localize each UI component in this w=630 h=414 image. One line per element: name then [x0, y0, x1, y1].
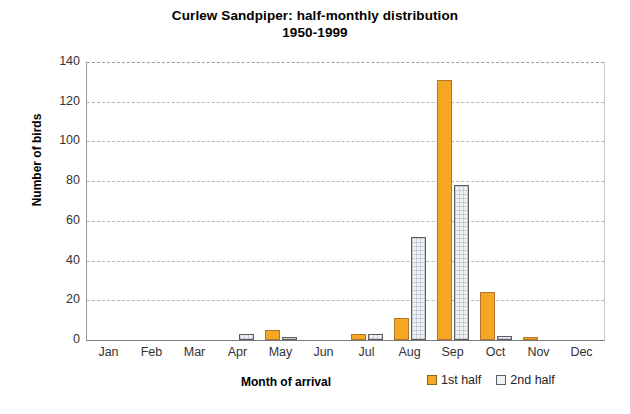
y-axis-tick-label: 40 — [36, 253, 80, 267]
month-bar-group — [474, 62, 517, 340]
x-axis-tick-label: Jan — [87, 345, 130, 359]
month-bar-group — [216, 62, 259, 340]
month-bar-group — [345, 62, 388, 340]
bar-chart: Curlew Sandpiper: half-monthly distribut… — [0, 0, 630, 414]
bar-aug-first-half — [394, 318, 409, 340]
x-axis-tick-label: Oct — [474, 345, 517, 359]
month-bar-group — [87, 62, 130, 340]
chart-title-line-2: 1950-1999 — [0, 24, 630, 41]
y-axis-tick-label: 20 — [36, 292, 80, 306]
y-axis-tick-label: 0 — [36, 332, 80, 346]
x-axis-tick-label: Aug — [388, 345, 431, 359]
legend-label-first-half: 1st half — [441, 374, 481, 386]
legend-swatch-gray-icon — [496, 375, 506, 385]
bar-apr-second-half — [239, 334, 254, 340]
chart-title-line-1: Curlew Sandpiper: half-monthly distribut… — [0, 7, 630, 24]
bar-aug-second-half — [411, 237, 426, 340]
bar-may-second-half — [282, 337, 297, 340]
x-axis-tick-label: Feb — [130, 345, 173, 359]
month-bar-group — [388, 62, 431, 340]
y-axis-tick-label: 140 — [36, 54, 80, 68]
x-axis-tick-label: Dec — [560, 345, 603, 359]
bar-nov-first-half — [523, 337, 538, 340]
month-bar-group — [259, 62, 302, 340]
x-axis-tick-label: Jun — [302, 345, 345, 359]
y-axis-title: Number of birds — [30, 60, 44, 260]
chart-legend: 1st half 2nd half — [427, 374, 555, 386]
x-axis-tick-label: Mar — [173, 345, 216, 359]
x-axis-tick-label: Jul — [345, 345, 388, 359]
x-axis-ticks: JanFebMarAprMayJunJulAugSepOctNovDec — [87, 345, 603, 365]
bar-sep-first-half — [437, 80, 452, 340]
legend-swatch-orange-icon — [427, 375, 437, 385]
bar-jul-first-half — [351, 334, 366, 340]
month-bar-group — [302, 62, 345, 340]
x-axis-tick-label: Apr — [216, 345, 259, 359]
y-axis-tick-label: 100 — [36, 133, 80, 147]
x-axis-tick-label: Nov — [517, 345, 560, 359]
y-axis-tick-label: 60 — [36, 213, 80, 227]
x-axis-title: Month of arrival — [196, 375, 376, 389]
month-bar-group — [173, 62, 216, 340]
month-bar-group — [130, 62, 173, 340]
bar-sep-second-half — [454, 185, 469, 340]
month-bar-group — [517, 62, 560, 340]
bar-oct-second-half — [497, 336, 512, 340]
bar-may-first-half — [265, 330, 280, 340]
bar-jul-second-half — [368, 334, 383, 340]
y-axis-tick-label: 80 — [36, 173, 80, 187]
y-axis-tick-label: 120 — [36, 94, 80, 108]
month-bar-group — [560, 62, 603, 340]
legend-item-second-half: 2nd half — [496, 374, 554, 386]
legend-item-first-half: 1st half — [427, 374, 481, 386]
chart-title: Curlew Sandpiper: half-monthly distribut… — [0, 7, 630, 41]
bar-oct-first-half — [480, 292, 495, 340]
bars-layer — [87, 62, 603, 340]
month-bar-group — [431, 62, 474, 340]
legend-label-second-half: 2nd half — [510, 374, 554, 386]
x-axis-tick-label: Sep — [431, 345, 474, 359]
x-axis-tick-label: May — [259, 345, 302, 359]
